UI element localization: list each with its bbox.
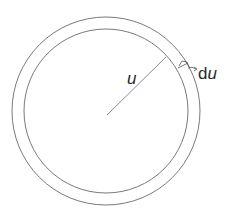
radius-label: u — [127, 70, 136, 87]
thickness-label-u: u — [207, 64, 216, 83]
inner-circle — [24, 29, 188, 193]
outer-circle — [12, 17, 200, 205]
radius-line — [107, 57, 166, 115]
ring-diagram — [0, 0, 234, 218]
thickness-label: du — [198, 65, 217, 82]
thickness-bracket — [179, 61, 189, 67]
